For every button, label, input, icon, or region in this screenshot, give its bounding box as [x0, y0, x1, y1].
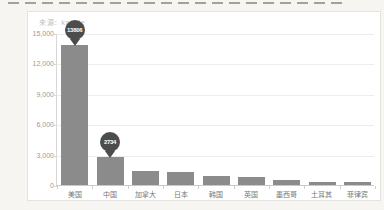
y-axis-tick-label: 0	[28, 182, 54, 190]
x-axis-tick	[304, 186, 305, 189]
x-axis-label: 墨西哥	[269, 190, 304, 199]
value-pin-label: 13806	[65, 20, 85, 40]
y-axis-tick	[53, 125, 57, 126]
x-axis-tick	[128, 186, 129, 189]
value-pin-tail	[105, 151, 115, 158]
value-pin-tail	[70, 39, 80, 46]
y-axis-tick	[53, 64, 57, 65]
plot-area: 美国中国加拿大日本韩国英国墨西哥土耳其菲律宾138062734	[56, 34, 374, 186]
y-axis-tick-label: 15,000	[28, 30, 54, 38]
x-axis-label: 英国	[234, 190, 269, 199]
y-axis-tick-label: 9,000	[28, 91, 54, 99]
value-pin-marker: 2734	[100, 132, 120, 158]
y-axis-tick-label: 12,000	[28, 60, 54, 68]
x-axis-label: 日本	[163, 190, 198, 199]
value-pin-label: 2734	[100, 132, 120, 152]
bar	[273, 180, 300, 185]
bar	[167, 172, 194, 185]
x-axis-tick	[92, 186, 93, 189]
x-axis-label: 韩国	[198, 190, 233, 199]
bar	[132, 171, 159, 185]
y-axis-tick	[53, 95, 57, 96]
y-axis-labels: 15,00012,0009,0006,0003,0000	[28, 34, 54, 186]
x-axis-label: 菲律宾	[340, 190, 375, 199]
y-axis-tick	[53, 34, 57, 35]
x-axis-label: 美国	[57, 190, 92, 199]
gridline	[57, 34, 374, 35]
y-axis-tick-label: 6,000	[28, 121, 54, 129]
x-axis-tick	[198, 186, 199, 189]
x-axis-label: 中国	[92, 190, 127, 199]
gridline	[57, 64, 374, 65]
y-axis-tick	[53, 156, 57, 157]
chart-card: 来源：kaggle 15,00012,0009,0006,0003,0000 美…	[27, 11, 381, 201]
x-axis-tick	[163, 186, 164, 189]
bar	[344, 182, 371, 185]
x-axis-tick	[269, 186, 270, 189]
gridline	[57, 125, 374, 126]
bar	[309, 182, 336, 185]
bar	[97, 157, 124, 185]
x-axis-tick	[57, 186, 58, 189]
x-axis-tick	[234, 186, 235, 189]
x-axis-tick	[375, 186, 376, 189]
gridline	[57, 95, 374, 96]
bar	[203, 176, 230, 185]
x-axis-tick	[340, 186, 341, 189]
x-axis-label: 土耳其	[304, 190, 339, 199]
bar	[238, 177, 265, 185]
page-top-dashed-line	[8, 2, 348, 4]
bar	[61, 45, 88, 185]
x-axis-label: 加拿大	[128, 190, 163, 199]
y-axis-tick-label: 3,000	[28, 152, 54, 160]
value-pin-marker: 13806	[65, 20, 85, 46]
